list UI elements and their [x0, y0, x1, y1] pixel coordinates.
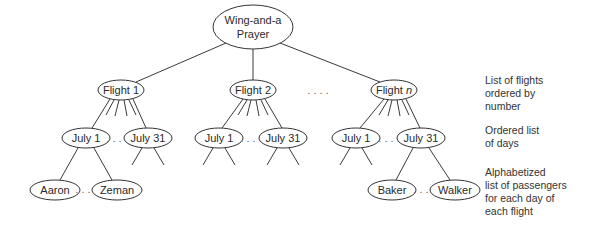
level1-description: List of flights ordered by number [485, 74, 543, 113]
flight-label: Flight 1 [103, 84, 139, 96]
day-node-f1-july31[interactable]: July 31 [124, 128, 172, 148]
flight-node-n[interactable]: Flight n [371, 80, 417, 100]
passenger-label: Baker [378, 184, 407, 196]
day-label: July 31 [266, 132, 301, 144]
passenger-node-baker[interactable]: Baker [368, 180, 416, 200]
passenger-node-walker[interactable]: Walker [430, 180, 480, 200]
day-label: July 31 [131, 132, 166, 144]
day-edges [60, 148, 450, 180]
flight-node-1[interactable]: Flight 1 [98, 80, 144, 100]
day-label: July 1 [72, 132, 101, 144]
passenger-node-zeman[interactable]: Zeman [92, 180, 142, 200]
root-label-line1: Wing-and-a [225, 14, 283, 26]
day-node-f2-july31[interactable]: July 31 [259, 128, 307, 148]
flight-node-2[interactable]: Flight 2 [230, 80, 276, 100]
day-label: July 1 [205, 132, 234, 144]
flight-label: Flight n [376, 84, 412, 96]
root-label-line2: Prayer [237, 28, 270, 40]
flight-edges [92, 99, 420, 128]
day-ellipsis: . . . . [240, 132, 261, 144]
day-node-fn-july1[interactable]: July 1 [332, 128, 380, 148]
level3-description: Alphabetized list of passengers for each… [485, 166, 567, 218]
passenger-node-aaron[interactable]: Aaron [30, 180, 80, 200]
flight-label: Flight 2 [235, 84, 271, 96]
day-node-f2-july1[interactable]: July 1 [195, 128, 243, 148]
root-node[interactable]: Wing-and-a Prayer [213, 5, 293, 49]
passenger-label: Aaron [40, 184, 69, 196]
day-label: July 1 [342, 132, 371, 144]
day-label: July 31 [404, 132, 439, 144]
passenger-label: Zeman [100, 184, 134, 196]
flight-ellipsis: . . . . [307, 84, 328, 96]
day-ellipsis: . . . . [378, 132, 399, 144]
day-node-fn-july31[interactable]: July 31 [397, 128, 445, 148]
passenger-label: Walker [438, 184, 472, 196]
day-node-f1-july1[interactable]: July 1 [62, 128, 110, 148]
level2-description: Ordered list of days [485, 124, 539, 150]
